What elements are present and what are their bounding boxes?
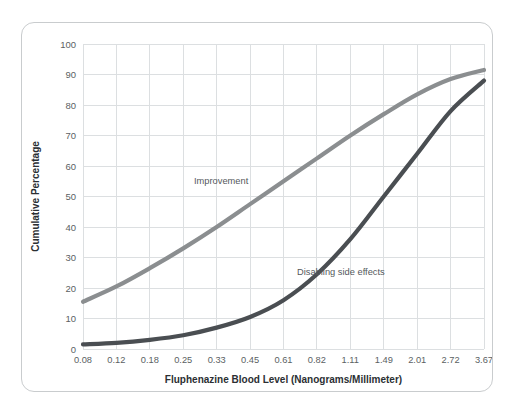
x-tick-2: 0.18: [141, 355, 159, 365]
x-tick-7: 0.82: [308, 355, 326, 365]
y-tick-10: 10: [65, 313, 76, 324]
x-tick-8: 1.11: [342, 355, 359, 365]
annotation-improvement: Improvement: [194, 176, 249, 186]
y-tick-30: 30: [65, 252, 76, 263]
x-tick-10: 2.01: [408, 355, 426, 365]
x-axis-tick-labels: 0.08 0.12 0.18 0.25 0.33 0.45 0.61 0.82 …: [74, 355, 492, 365]
chart-card: 100 90 80 70 60 50 40 30 20 10 0 0.08 0.…: [21, 22, 493, 392]
y-axis-title: Cumulative Percentage: [30, 141, 41, 252]
y-tick-0: 0: [71, 344, 76, 355]
y-tick-60: 60: [65, 161, 76, 172]
y-tick-80: 80: [65, 100, 76, 111]
line-chart-plot: 100 90 80 70 60 50 40 30 20 10 0 0.08 0.…: [22, 23, 492, 391]
y-tick-100: 100: [60, 39, 76, 50]
x-tick-5: 0.45: [241, 355, 259, 365]
x-tick-0: 0.08: [74, 355, 92, 365]
y-tick-50: 50: [65, 191, 76, 202]
chart-page: 100 90 80 70 60 50 40 30 20 10 0 0.08 0.…: [0, 0, 506, 412]
y-tick-20: 20: [65, 283, 76, 294]
x-tick-9: 1.49: [375, 355, 393, 365]
x-tick-4: 0.33: [208, 355, 226, 365]
y-axis-tick-labels: 100 90 80 70 60 50 40 30 20 10 0: [60, 39, 76, 355]
x-tick-3: 0.25: [174, 355, 192, 365]
x-tick-1: 0.12: [107, 355, 125, 365]
annotation-disabling-side-effects: Disabling side effects: [297, 267, 385, 277]
x-tick-12: 3.67: [475, 355, 492, 365]
y-tick-90: 90: [65, 69, 76, 80]
x-tick-6: 0.61: [274, 355, 292, 365]
y-tick-70: 70: [65, 130, 76, 141]
x-tick-11: 2.72: [442, 355, 460, 365]
x-axis-title: Fluphenazine Blood Level (Nanograms/Mill…: [165, 374, 402, 385]
y-tick-40: 40: [65, 222, 76, 233]
